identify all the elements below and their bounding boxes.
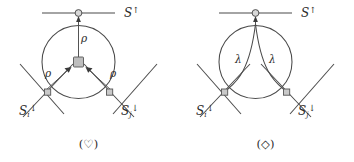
top-circle-node [75,10,82,17]
arrowhead-top [76,16,81,22]
diagram-panel-heart: S↑ ρ ρ ρ Si↓ Sj↓ (♡) [0,0,177,162]
label-s-j-down: Sj↓ [298,104,316,119]
label-rho-right: ρ [110,68,116,79]
label-s-i-down: Si↓ [19,104,37,119]
label-s-up-arrow: ↑ [309,5,316,15]
left-square-node [45,89,51,95]
label-s-i-arrow: ↓ [207,103,214,113]
label-s-up-base: S [301,6,309,20]
caption-diamond: (◇) [177,137,354,151]
label-s-i-arrow: ↓ [30,103,37,113]
label-s-up: S↑ [301,6,316,19]
arrowhead-top [253,16,258,22]
label-s-j-down: Sj↓ [121,104,139,119]
right-square-node [107,89,113,95]
label-s-up: S↑ [124,6,139,19]
label-s-j-base: S [121,104,129,118]
edge-right-to-center [89,70,112,91]
right-square-node [284,89,290,95]
left-square-node [222,89,228,95]
diagram-panel-diamond: S↑ λ λ Si↓ Sj↓ (◇) [177,0,354,162]
label-s-i-base: S [196,104,204,118]
label-rho-top: ρ [81,33,87,44]
label-s-up-base: S [124,6,132,20]
label-s-i-down: Si↓ [196,104,214,119]
label-s-i-base: S [19,104,27,118]
label-lambda-right: λ [269,54,276,65]
figure-container: S↑ ρ ρ ρ Si↓ Sj↓ (♡) [0,0,354,162]
label-rho-left: ρ [45,68,51,79]
top-circle-node [252,10,259,17]
center-square-node [74,57,84,67]
caption-heart: (♡) [0,137,177,151]
label-s-j-base: S [298,104,306,118]
label-s-j-arrow: ↓ [309,103,316,113]
label-s-j-arrow: ↓ [132,103,139,113]
label-s-up-arrow: ↑ [132,5,139,15]
label-lambda-left: λ [235,54,242,65]
